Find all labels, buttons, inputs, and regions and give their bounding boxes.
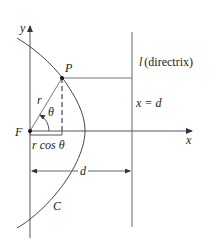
projection-label: r cos θ xyxy=(32,138,65,152)
directrix-equation-label: x = d xyxy=(135,96,162,110)
point-p-label: P xyxy=(64,61,73,75)
distance-label: d xyxy=(80,164,87,178)
directrix-label: l(directrix) xyxy=(139,55,193,69)
radius-line xyxy=(30,78,62,131)
conic-diagram: y x P r θ F r cos θ d C l(directrix) x =… xyxy=(0,0,209,243)
x-axis-label: x xyxy=(185,133,192,147)
curve-c xyxy=(17,38,85,228)
y-axis-label: y xyxy=(19,21,26,35)
radius-label: r xyxy=(37,93,42,107)
curve-label: C xyxy=(53,199,62,213)
focus-label: F xyxy=(14,125,23,139)
point-p xyxy=(60,76,64,80)
angle-label: θ xyxy=(48,105,54,119)
rcos-bracket xyxy=(30,131,62,135)
focus-point xyxy=(28,129,32,133)
